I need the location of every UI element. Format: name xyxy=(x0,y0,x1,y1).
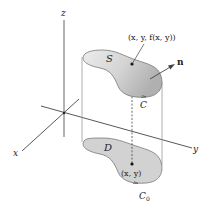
normal-label: n xyxy=(177,57,184,67)
region-point xyxy=(130,162,133,165)
x-axis-label: x xyxy=(13,148,18,158)
normal-arrowhead-icon xyxy=(168,64,175,69)
x-axis xyxy=(22,99,79,151)
region-point-label: (x, y) xyxy=(121,169,141,178)
surface-point-label: (x, y, f(x, y)) xyxy=(128,33,176,42)
surface-integral-diagram: z x y S (x, y, f(x, y)) n C D (x, y) C 0 xyxy=(0,0,216,210)
origin-point xyxy=(63,112,65,114)
surface-label: S xyxy=(106,53,113,64)
region-label: D xyxy=(103,142,112,153)
z-axis-label: z xyxy=(60,8,66,18)
boundary-c0-subscript: 0 xyxy=(146,195,150,202)
boundary-c0-label: C xyxy=(139,191,146,201)
surface-s xyxy=(83,50,162,97)
y-axis-label: y xyxy=(192,144,199,154)
boundary-c-label: C xyxy=(140,100,147,110)
